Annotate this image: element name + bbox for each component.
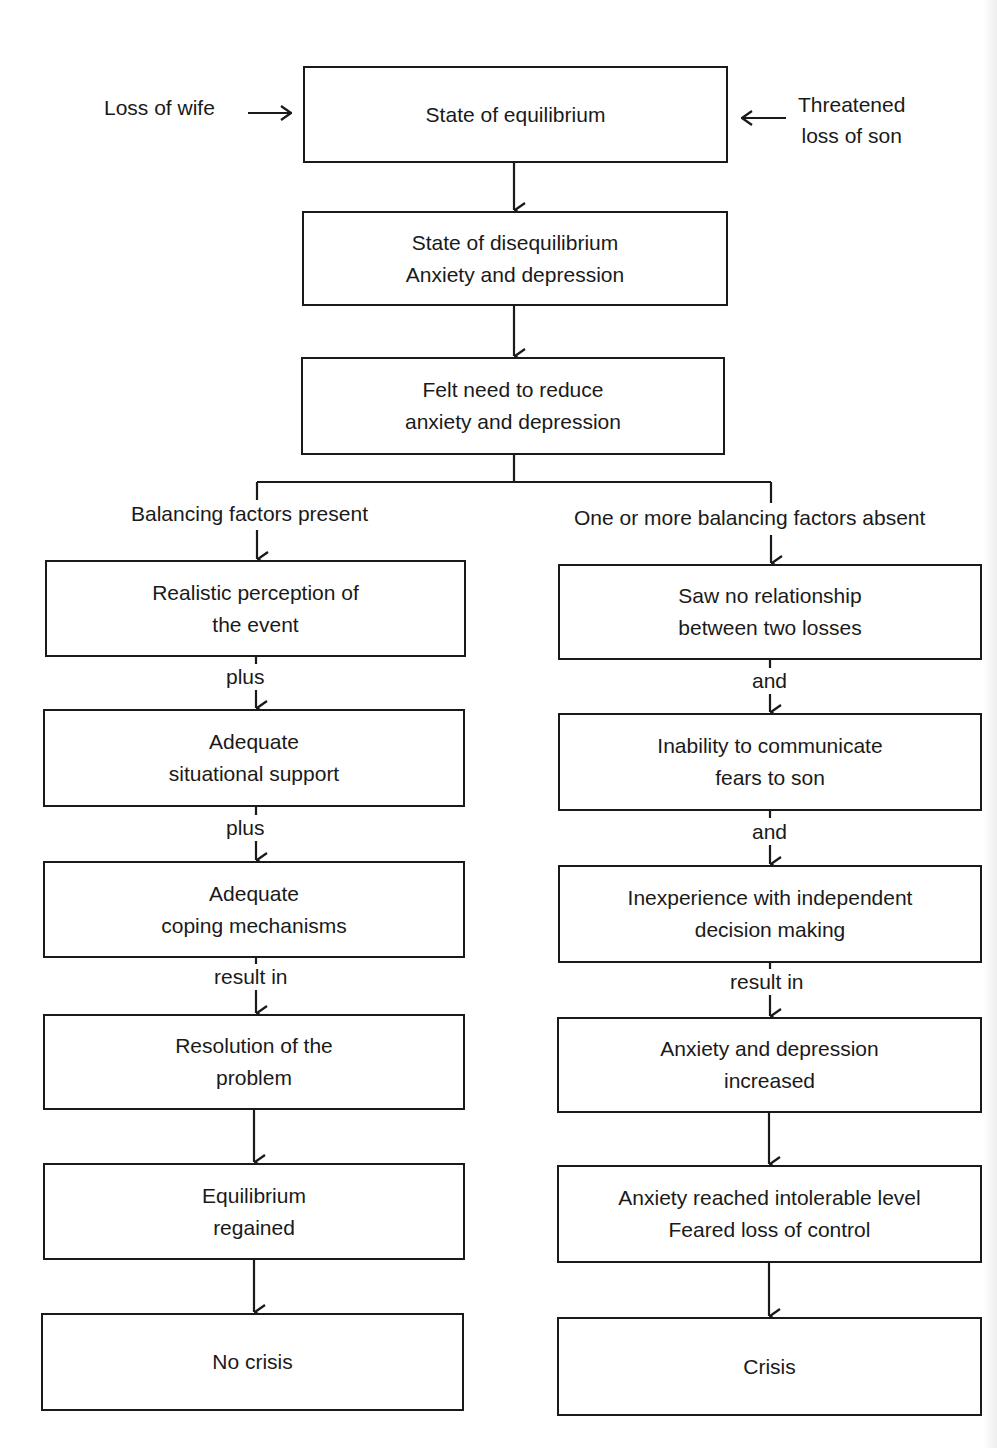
- box-text-line2: regained: [213, 1212, 295, 1244]
- box-text-line1: Crisis: [743, 1351, 796, 1383]
- box-text-line1: Realistic perception of: [152, 577, 359, 609]
- left-box-no-crisis: No crisis: [41, 1313, 464, 1411]
- box-text-line2: the event: [212, 609, 298, 641]
- right-box-anxiety-increased: Anxiety and depression increased: [557, 1017, 982, 1113]
- box-text-line1: State of equilibrium: [426, 99, 606, 131]
- box-text-line1: Saw no relationship: [678, 580, 861, 612]
- box-text-line1: Anxiety reached intolerable level: [618, 1182, 920, 1214]
- connector-label: result in: [214, 965, 288, 989]
- left-box-realistic-perception: Realistic perception of the event: [45, 560, 466, 657]
- box-text-line2: anxiety and depression: [405, 406, 621, 438]
- box-text-line2: between two losses: [678, 612, 861, 644]
- branch-heading-right: One or more balancing factors absent: [574, 506, 925, 530]
- box-text-line1: Resolution of the: [175, 1030, 333, 1062]
- box-felt-need: Felt need to reduce anxiety and depressi…: [301, 357, 725, 455]
- connector-label: and: [752, 669, 787, 693]
- box-text-line2: Feared loss of control: [669, 1214, 871, 1246]
- left-box-resolution: Resolution of the problem: [43, 1014, 465, 1110]
- connector-label: and: [752, 820, 787, 844]
- box-text-line1: Inability to communicate: [657, 730, 882, 762]
- box-text-line2: situational support: [169, 758, 339, 790]
- input-threatened-line1: Threatened: [798, 89, 905, 120]
- input-threatened-loss-of-son: Threatened loss of son: [798, 89, 905, 151]
- box-text-line1: Adequate: [209, 878, 299, 910]
- right-box-no-relationship: Saw no relationship between two losses: [558, 564, 982, 660]
- connector-label: plus: [226, 816, 265, 840]
- box-text-line2: decision making: [695, 914, 846, 946]
- box-text-line1: Inexperience with independent: [628, 882, 913, 914]
- right-box-inexperience: Inexperience with independent decision m…: [558, 865, 982, 963]
- box-text-line1: State of disequilibrium: [412, 227, 619, 259]
- box-text-line2: Anxiety and depression: [406, 259, 624, 291]
- box-text-line1: Adequate: [209, 726, 299, 758]
- connector-label: result in: [730, 970, 804, 994]
- left-box-equilibrium-regained: Equilibrium regained: [43, 1163, 465, 1260]
- branch-heading-left: Balancing factors present: [131, 502, 368, 526]
- box-state-of-disequilibrium: State of disequilibrium Anxiety and depr…: [302, 211, 728, 306]
- connector-label: plus: [226, 665, 265, 689]
- right-box-crisis: Crisis: [557, 1317, 982, 1416]
- box-text-line2: increased: [724, 1065, 815, 1097]
- input-threatened-line2: loss of son: [798, 120, 905, 151]
- box-state-of-equilibrium: State of equilibrium: [303, 66, 728, 163]
- box-text-line2: fears to son: [715, 762, 825, 794]
- right-box-inability-to-communicate: Inability to communicate fears to son: [558, 713, 982, 811]
- page-edge: [983, 0, 997, 1448]
- box-text-line1: Anxiety and depression: [660, 1033, 878, 1065]
- right-box-intolerable-level: Anxiety reached intolerable level Feared…: [557, 1165, 982, 1263]
- left-box-situational-support: Adequate situational support: [43, 709, 465, 807]
- box-text-line1: Equilibrium: [202, 1180, 306, 1212]
- left-box-coping-mechanisms: Adequate coping mechanisms: [43, 861, 465, 958]
- box-text-line2: problem: [216, 1062, 292, 1094]
- box-text-line1: No crisis: [212, 1346, 293, 1378]
- input-loss-of-wife: Loss of wife: [104, 96, 215, 120]
- box-text-line1: Felt need to reduce: [423, 374, 604, 406]
- box-text-line2: coping mechanisms: [161, 910, 347, 942]
